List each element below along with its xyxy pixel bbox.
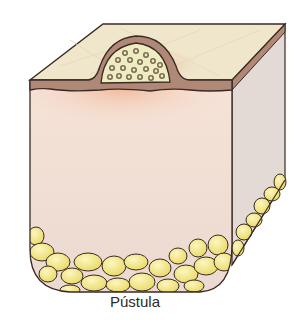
figure-caption: Pústula xyxy=(0,293,270,310)
skin-block-illustration xyxy=(0,0,300,333)
